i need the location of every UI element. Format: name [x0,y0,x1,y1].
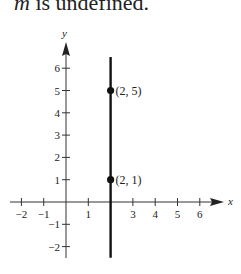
y-axis-arrow-icon [62,42,70,56]
x-tick-label: −2 [16,208,28,220]
y-tick-label: 2 [55,151,61,163]
x-axis-label: x [227,195,233,207]
x-tick-label: 4 [152,208,158,220]
x-axis-arrow-icon [210,198,224,206]
x-tick-label: 6 [197,208,203,220]
y-tick-label: 3 [55,129,61,141]
x-tick-label: 1 [86,208,92,220]
x-tick-label: 5 [175,208,181,220]
data-point [107,87,114,94]
y-tick-label: 5 [55,85,61,97]
y-tick-label: −1 [48,218,60,230]
data-point [107,176,114,183]
point-label: (2, 1) [116,173,142,187]
y-axis-label: y [61,27,67,39]
y-tick-label: 4 [55,107,61,119]
coordinate-plot: xy−2−113456654321−1−2(2, 5)(2, 1) [0,0,241,274]
x-tick-label: 3 [130,208,136,220]
y-tick-label: −2 [48,241,60,253]
y-tick-label: 6 [55,62,61,74]
point-label: (2, 5) [116,84,142,98]
y-tick-label: 1 [55,174,61,186]
